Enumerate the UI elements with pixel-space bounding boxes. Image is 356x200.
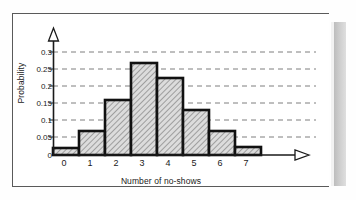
bar-2 [105, 100, 131, 155]
arrow-right-icon [295, 150, 309, 160]
arrow-up-icon [49, 28, 59, 41]
histogram-bars [53, 63, 261, 155]
bar-0 [53, 148, 79, 155]
bar-4 [157, 78, 183, 155]
bar-6 [209, 131, 235, 155]
chart-svg [0, 0, 356, 200]
bar-3 [131, 63, 157, 155]
bar-5 [183, 110, 209, 155]
figure-page: 0 0.05 0.1 0.15 0.2 0.25 0.3 0 1 2 3 4 5… [0, 0, 356, 200]
bar-1 [79, 131, 105, 155]
histogram-plot: 0 0.05 0.1 0.15 0.2 0.25 0.3 0 1 2 3 4 5… [0, 0, 356, 200]
bar-7 [235, 147, 261, 155]
